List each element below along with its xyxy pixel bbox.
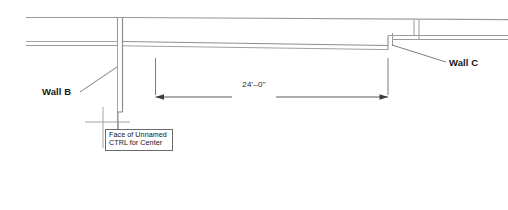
- wall-c-jog-group: [388, 19, 508, 49]
- left-vertical-wall-group: [118, 18, 123, 122]
- floor-plan-svg: [0, 0, 508, 210]
- wall-c-leader-line: [392, 45, 446, 62]
- wall-b-label: Wall B: [42, 86, 71, 97]
- interior-wall-face-right: [123, 42, 389, 46]
- drawing-canvas: Wall B Wall C 24'–0" Face of Unnamed CTR…: [0, 0, 508, 210]
- wall-c-label: Wall C: [449, 57, 478, 68]
- dimension-arrowhead-right: [380, 94, 389, 100]
- callout-box: Face of Unnamed CTRL for Center: [105, 129, 173, 151]
- dimension-group: [156, 58, 389, 100]
- dimension-arrowhead-left: [156, 94, 165, 100]
- dimension-value-text: 24'–0": [242, 80, 265, 89]
- callout-line-2: CTRL for Center: [109, 139, 170, 147]
- top-wall-group: [26, 18, 508, 20]
- top-wall-upper-face-right: [124, 18, 508, 20]
- interior-wall-bottom-right: [123, 46, 389, 50]
- interior-wall-group: [26, 42, 388, 50]
- wall-b-leader-line: [80, 67, 117, 92]
